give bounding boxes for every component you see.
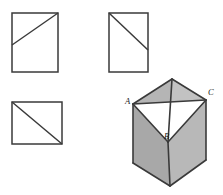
view-top-right-rect: [109, 13, 148, 72]
view-top-left-diagonal: [12, 13, 58, 45]
view-top-left-rect: [12, 13, 58, 72]
view-top-right: [109, 13, 148, 72]
view-bottom-left-diagonal: [12, 102, 62, 144]
geometry-figure: A B C: [0, 0, 223, 195]
prism-pictorial: A B C: [124, 79, 214, 186]
view-bottom-left: [12, 102, 62, 144]
vertex-label-a: A: [124, 96, 131, 106]
figure-canvas: A B C: [0, 0, 223, 195]
view-top-right-diagonal: [109, 13, 148, 50]
view-top-left: [12, 13, 58, 72]
vertex-label-c: C: [208, 87, 214, 97]
vertex-label-b: B: [164, 131, 169, 141]
